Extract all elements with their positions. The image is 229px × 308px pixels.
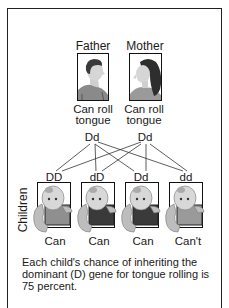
caption: Each child's chance of inheriting the do… [22, 256, 222, 292]
child-1-phenotype: Can [40, 235, 70, 247]
baby-illustration-icon [116, 182, 162, 234]
baby-illustration-icon [160, 182, 206, 234]
child-3-phenotype: Can [128, 235, 158, 247]
child-1-portrait [28, 182, 74, 234]
child-2-portrait [72, 182, 118, 234]
child-4-phenotype: Can't [172, 235, 204, 247]
child-2-phenotype: Can [84, 235, 114, 247]
baby-illustration-icon [72, 182, 118, 234]
child-3-portrait [116, 182, 162, 234]
child-4-portrait [160, 182, 206, 234]
baby-illustration-icon [28, 182, 74, 234]
